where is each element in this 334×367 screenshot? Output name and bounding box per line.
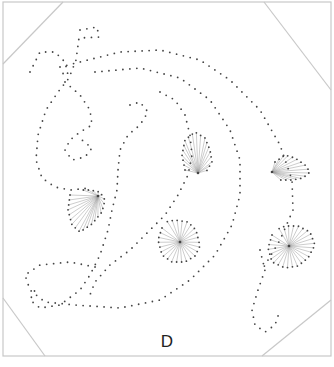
pin-dot: [196, 251, 198, 253]
pin-dot: [138, 303, 140, 305]
pin-dot: [182, 159, 184, 161]
pin-dot: [293, 225, 295, 227]
pin-dot: [148, 50, 150, 52]
pin-dot: [145, 302, 147, 304]
pin-dot: [82, 140, 84, 142]
pin-dot: [253, 316, 255, 318]
pin-dot: [156, 71, 158, 73]
pin-dot: [36, 147, 38, 149]
pin-dot: [255, 296, 257, 298]
pin-dot: [194, 255, 196, 257]
pin-dot: [145, 115, 147, 117]
pin-dot: [75, 304, 77, 306]
pin-dot: [291, 181, 293, 183]
pin-dot: [210, 101, 212, 103]
pin-dot: [68, 155, 70, 157]
pin-dot: [67, 209, 69, 211]
pin-dot: [254, 323, 256, 325]
pin-dot: [280, 148, 282, 150]
pin-dot: [213, 256, 215, 258]
pin-dot: [104, 269, 106, 271]
pin-dot: [77, 188, 79, 190]
pin-dot: [155, 49, 157, 51]
pin-dot: [146, 109, 148, 111]
pin-dot: [186, 176, 188, 178]
pin-dot: [50, 101, 52, 103]
thread-line: [278, 246, 289, 265]
pin-dot: [173, 200, 175, 202]
pin-dot: [107, 231, 109, 233]
pin-dot: [84, 282, 86, 284]
pin-dot: [53, 263, 55, 265]
pin-dot: [199, 246, 201, 248]
pin-dot: [262, 276, 264, 278]
pin-dot: [90, 113, 92, 115]
pin-dot: [170, 292, 172, 294]
pin-dot: [92, 286, 94, 288]
pin-dot: [70, 189, 72, 191]
pin-dot: [268, 244, 270, 246]
pin-dot: [220, 73, 222, 75]
pin-dot: [226, 77, 228, 79]
pin-dot: [71, 223, 73, 225]
pin-dot: [111, 210, 113, 212]
pin-dot: [238, 157, 240, 159]
pin-dot: [101, 194, 103, 196]
pin-dot: [292, 266, 294, 268]
pin-dot: [84, 188, 86, 190]
thread-line: [289, 246, 292, 267]
pin-dot: [310, 251, 312, 253]
pin-dot: [120, 51, 122, 53]
pin-dot: [283, 155, 285, 157]
pin-dot: [91, 36, 93, 38]
pin-dot: [167, 258, 169, 260]
pin-dot: [41, 299, 43, 301]
pin-dot: [208, 146, 210, 148]
pin-dot: [67, 261, 69, 263]
pin-dot: [171, 98, 173, 100]
pin-dot: [75, 292, 77, 294]
pin-dot: [271, 129, 273, 131]
pin-dot: [56, 187, 58, 189]
pin-dot: [182, 284, 184, 286]
pin-dot: [176, 219, 178, 221]
pin-dot: [211, 161, 213, 163]
thread-line: [177, 242, 180, 262]
pin-dot: [191, 155, 193, 157]
pin-dot: [117, 307, 119, 309]
pin-dot: [95, 280, 97, 282]
pin-dot: [296, 265, 298, 267]
pin-dot: [292, 202, 294, 204]
pin-dot: [209, 165, 211, 167]
pin-dot: [97, 191, 99, 193]
pin-dot: [184, 169, 186, 171]
pin-dot: [271, 234, 273, 236]
pin-dot: [227, 232, 229, 234]
pin-dot: [124, 306, 126, 308]
pin-dot: [313, 247, 315, 249]
pin-dot: [304, 175, 306, 177]
pin-dot: [267, 123, 269, 125]
pin-dot: [35, 154, 37, 156]
pin-dot: [259, 328, 261, 330]
pin-dot: [66, 64, 68, 66]
string-art-pattern: [0, 0, 334, 367]
pin-dot: [73, 159, 75, 161]
pin-dot: [27, 272, 29, 274]
pin-dot: [183, 145, 185, 147]
corner-line: [3, 2, 63, 64]
pin-dot: [131, 131, 133, 133]
pin-dot: [256, 106, 258, 108]
pin-dot: [36, 294, 38, 296]
pin-dot: [113, 53, 115, 55]
pin-dot: [59, 66, 61, 68]
pin-dot: [208, 65, 210, 67]
pin-dot: [181, 154, 183, 156]
pin-dot: [246, 96, 248, 98]
pin-dot: [30, 290, 32, 292]
pin-dot: [204, 137, 206, 139]
pin-dot: [232, 219, 234, 221]
pin-dot: [58, 90, 60, 92]
pin-dot: [98, 36, 100, 38]
pin-dot: [104, 237, 106, 239]
